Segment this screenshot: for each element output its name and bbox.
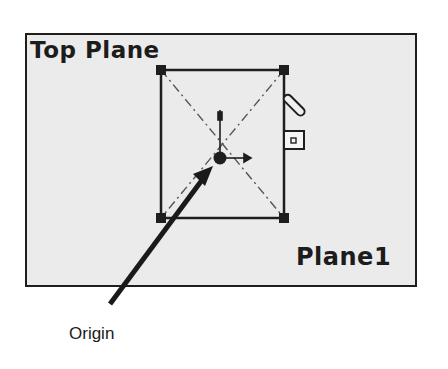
origin-point[interactable] <box>214 152 227 165</box>
sketch-canvas <box>0 0 448 369</box>
construction-diagonals <box>161 70 284 218</box>
origin-callout-label: Origin <box>69 324 114 344</box>
pencil-icon <box>282 93 306 117</box>
sketch-relation-icon <box>284 131 304 149</box>
